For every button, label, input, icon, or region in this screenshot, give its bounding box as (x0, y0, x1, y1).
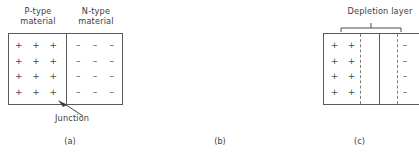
positive-charge: + (15, 57, 23, 66)
panel-b-caption: (b) (140, 136, 300, 146)
junction-label: Junction (55, 113, 125, 123)
positive-charge: + (32, 57, 40, 66)
negative-charge: – (109, 72, 114, 81)
positive-charge: + (50, 57, 58, 66)
positive-charge: + (50, 41, 58, 50)
negative-charge: – (93, 88, 98, 97)
p-type-label-line1: P-type (8, 6, 68, 16)
negative-charge: – (93, 57, 98, 66)
pn-junction-figure: P-type material N-type material ++++++++… (0, 0, 419, 152)
panel-a-pn-junction: P-type material N-type material ++++++++… (0, 0, 140, 152)
negative-charge: – (93, 41, 98, 50)
positive-charge: + (15, 88, 23, 97)
negative-charge: – (93, 72, 98, 81)
panel-a-caption: (a) (0, 136, 140, 146)
negative-charge: – (76, 72, 81, 81)
positive-charge: + (50, 72, 58, 81)
n-type-material-label: N-type material (66, 6, 126, 26)
positive-charge: + (32, 41, 40, 50)
n-type-label-line1: N-type (66, 6, 126, 16)
panel-c-caption: (c) (300, 136, 419, 146)
p-type-label-line2: material (8, 16, 68, 26)
positive-charge: + (15, 72, 23, 81)
p-region-charge-grid-a: ++++++++++++ (10, 38, 62, 100)
negative-charge: – (76, 88, 81, 97)
negative-charge: – (109, 57, 114, 66)
n-type-label-line2: material (66, 16, 126, 26)
positive-charge: + (32, 72, 40, 81)
panel-c-diode-symbol: Anode Cathode (c) (300, 0, 419, 152)
junction-line (66, 34, 67, 104)
positive-charge: + (15, 41, 23, 50)
positive-charge: + (32, 88, 40, 97)
p-type-material-label: P-type material (8, 6, 68, 26)
negative-charge: – (109, 41, 114, 50)
positive-charge: + (50, 88, 58, 97)
negative-charge: – (76, 41, 81, 50)
negative-charge: – (109, 88, 114, 97)
n-region-charge-grid-a: –––––––––––– (70, 38, 120, 100)
panel-b-depletion-layer: Depletion layer ++++++++ –––––––– (b) (140, 0, 300, 152)
negative-charge: – (76, 57, 81, 66)
